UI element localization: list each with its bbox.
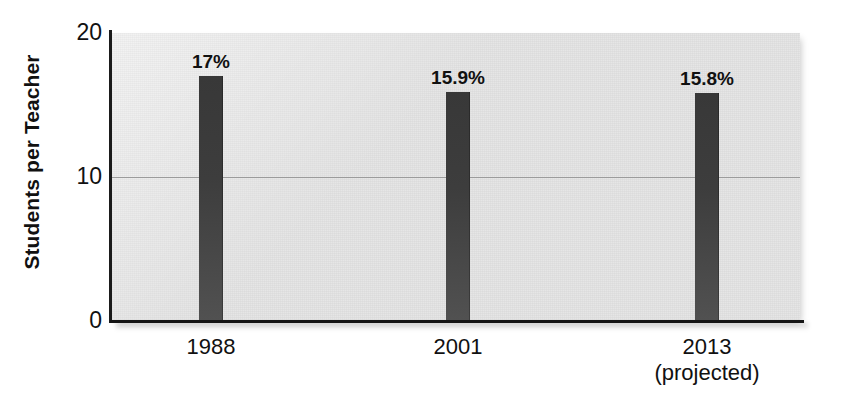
y-tick-label-20: 20: [32, 21, 102, 44]
x-tick-label-2013: 2013 (projected): [597, 334, 817, 386]
bar-value-label-2001: 15.9%: [378, 68, 538, 87]
y-tick-label-10: 10: [32, 165, 102, 188]
x-tick-primary-1988: 1988: [187, 334, 236, 359]
bar-value-label-1988: 17%: [131, 52, 291, 71]
bar-value-label-2013: 15.8%: [627, 69, 787, 88]
x-axis-shadow: [116, 323, 808, 330]
x-tick-label-1988: 1988: [101, 334, 321, 360]
y-axis-label: Students per Teacher: [20, 12, 44, 312]
bar-2001: [446, 92, 470, 320]
bar-1988: [199, 76, 223, 320]
x-tick-primary-2001: 2001: [434, 334, 483, 359]
x-tick-label-2001: 2001: [348, 334, 568, 360]
y-tick-label-0: 0: [32, 309, 102, 332]
x-tick-primary-2013: 2013: [683, 334, 732, 359]
bar-chart-figure: Students per Teacher 20 10 0 17% 15.9% 1…: [0, 0, 845, 409]
bar-2013: [695, 93, 719, 320]
x-axis-line: [110, 320, 804, 323]
x-tick-sublabel-2013: (projected): [597, 360, 817, 386]
